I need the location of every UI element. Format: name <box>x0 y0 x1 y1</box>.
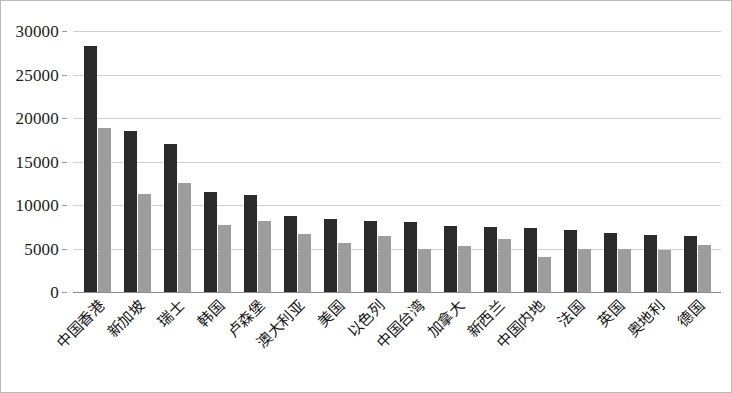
bar-series-2[interactable] <box>498 239 511 292</box>
bar-series-1[interactable] <box>564 230 577 292</box>
y-tick-mark <box>62 292 67 293</box>
x-label-slot: 法国 <box>557 294 597 392</box>
bar-group[interactable] <box>437 31 477 292</box>
bar-series-2[interactable] <box>618 249 631 292</box>
y-tick-mark <box>62 162 67 163</box>
bar-series-2[interactable] <box>418 249 431 292</box>
bar-series-1[interactable] <box>244 195 257 292</box>
bar-series-2[interactable] <box>538 257 551 292</box>
bar-series-2[interactable] <box>338 243 351 292</box>
bar-series-2[interactable] <box>458 246 471 292</box>
bar-series-1[interactable] <box>404 222 417 292</box>
bar-series-2[interactable] <box>98 128 111 292</box>
x-tick-label: 韩国 <box>196 298 228 330</box>
bar-series-1[interactable] <box>644 235 657 292</box>
y-axis: 050001000015000200002500030000 <box>1 31 67 292</box>
x-tick-label: 法国 <box>556 298 588 330</box>
x-label-slot: 韩国 <box>197 294 237 392</box>
bar-series-2[interactable] <box>578 249 591 292</box>
bar-group[interactable] <box>317 31 357 292</box>
bar-group[interactable] <box>117 31 157 292</box>
bar-series-1[interactable] <box>604 233 617 292</box>
y-tick-mark <box>62 205 67 206</box>
x-label-slot: 英国 <box>597 294 637 392</box>
bar-series-2[interactable] <box>658 250 671 292</box>
bar-group[interactable] <box>357 31 397 292</box>
bar-group[interactable] <box>557 31 597 292</box>
x-label-slot: 中国内地 <box>517 294 557 392</box>
x-tick-label: 德国 <box>676 298 708 330</box>
y-tick-label: 25000 <box>16 66 60 83</box>
y-tick-label: 5000 <box>24 240 59 257</box>
y-tick-mark <box>62 31 67 32</box>
bar-series-1[interactable] <box>84 46 97 292</box>
x-label-slot: 中国香港 <box>77 294 117 392</box>
x-label-slot: 澳大利亚 <box>277 294 317 392</box>
y-tick-label: 0 <box>50 284 59 301</box>
x-label-slot: 新加坡 <box>117 294 157 392</box>
bar-series-1[interactable] <box>284 216 297 292</box>
chart-container: 050001000015000200002500030000 中国香港新加坡瑞士… <box>0 0 732 393</box>
bar-series-2[interactable] <box>258 221 271 292</box>
x-label-slot: 奥地利 <box>637 294 677 392</box>
bar-series-2[interactable] <box>218 225 231 292</box>
bar-series-2[interactable] <box>298 234 311 292</box>
bar-group[interactable] <box>477 31 517 292</box>
bar-group[interactable] <box>597 31 637 292</box>
bar-series-1[interactable] <box>524 228 537 292</box>
x-label-slot: 中国台湾 <box>397 294 437 392</box>
x-label-slot: 美国 <box>317 294 357 392</box>
bar-series-1[interactable] <box>684 236 697 292</box>
y-tick-label: 30000 <box>16 23 60 40</box>
y-tick-label: 10000 <box>16 197 60 214</box>
bar-group[interactable] <box>237 31 277 292</box>
bar-series-1[interactable] <box>204 192 217 292</box>
bar-series-1[interactable] <box>484 227 497 292</box>
bars-layer <box>73 31 721 292</box>
bar-series-2[interactable] <box>178 183 191 292</box>
bar-series-1[interactable] <box>444 226 457 292</box>
x-axis: 中国香港新加坡瑞士韩国卢森堡澳大利亚美国以色列中国台湾加拿大新西兰中国内地法国英… <box>73 294 721 392</box>
axis-baseline <box>73 292 721 293</box>
y-tick-mark <box>62 249 67 250</box>
bar-group[interactable] <box>277 31 317 292</box>
x-tick-label: 美国 <box>316 298 348 330</box>
bar-series-1[interactable] <box>324 219 337 292</box>
x-tick-label: 英国 <box>596 298 628 330</box>
x-label-slot: 瑞士 <box>157 294 197 392</box>
bar-series-1[interactable] <box>164 144 177 292</box>
bar-group[interactable] <box>397 31 437 292</box>
bar-series-1[interactable] <box>364 221 377 292</box>
bar-group[interactable] <box>677 31 717 292</box>
y-tick-mark <box>62 75 67 76</box>
bar-series-2[interactable] <box>698 245 711 292</box>
bar-series-1[interactable] <box>124 131 137 292</box>
y-tick-label: 15000 <box>16 153 60 170</box>
bar-group[interactable] <box>197 31 237 292</box>
bar-group[interactable] <box>157 31 197 292</box>
x-label-slot: 德国 <box>677 294 717 392</box>
x-label-slot: 加拿大 <box>437 294 477 392</box>
bar-group[interactable] <box>77 31 117 292</box>
x-tick-label: 中国香港 <box>55 298 109 352</box>
bar-series-2[interactable] <box>138 194 151 292</box>
bar-series-2[interactable] <box>378 236 391 292</box>
x-tick-label: 瑞士 <box>156 298 188 330</box>
bar-group[interactable] <box>637 31 677 292</box>
y-tick-label: 20000 <box>16 110 60 127</box>
y-tick-mark <box>62 118 67 119</box>
bar-group[interactable] <box>517 31 557 292</box>
